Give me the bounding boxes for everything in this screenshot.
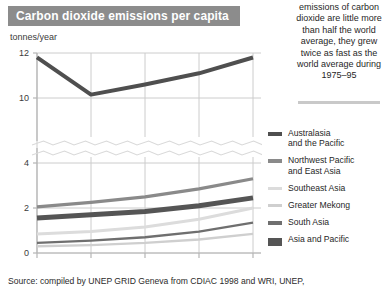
legend-item[interactable]: South Asia: [268, 217, 388, 227]
x-axis-tick-label: 1990: [189, 259, 209, 261]
legend-item-label: Northwest Pacific and East Asia: [288, 155, 354, 175]
plot-area: 121042019751980198519901995: [0, 44, 262, 260]
legend-item-label: Southeast Asia: [288, 183, 345, 193]
x-axis-tick-label: 1985: [135, 259, 155, 261]
legend-swatch-icon: [268, 187, 282, 190]
page-title: Carbon dioxide emissions per capita: [8, 9, 229, 23]
x-axis-tick-label: 1980: [81, 259, 101, 261]
legend-item[interactable]: Asia and Pacific: [268, 234, 388, 246]
legend-item[interactable]: Australasia and the Pacific: [268, 128, 388, 148]
y-axis-unit-label: tonnes/year: [10, 32, 57, 42]
source-footer: Source: compiled by UNEP GRID Geneva fro…: [8, 276, 380, 286]
legend-item[interactable]: Southeast Asia: [268, 183, 388, 193]
y-axis-tick-label: 4: [24, 158, 29, 168]
side-note-rule: [298, 101, 380, 104]
x-axis-tick-label: 1975: [27, 259, 47, 261]
y-axis-tick-label: 10: [19, 93, 29, 103]
y-axis-tick-label: 0: [24, 248, 29, 258]
legend-swatch-icon: [268, 132, 282, 136]
y-axis-tick-label: 2: [24, 203, 29, 213]
legend-swatch-icon: [268, 159, 282, 163]
y-axis-tick-label: 12: [19, 48, 29, 58]
legend-item-label: Asia and Pacific: [288, 234, 349, 244]
legend-item-label: Australasia and the Pacific: [288, 128, 344, 148]
chart-figure: Carbon dioxide emissions per capita tonn…: [0, 0, 388, 294]
chart-title-band: Carbon dioxide emissions per capita: [8, 6, 240, 26]
legend-item[interactable]: Northwest Pacific and East Asia: [268, 155, 388, 175]
x-axis-tick-label: 1995: [243, 259, 262, 261]
legend-item[interactable]: Greater Mekong: [268, 200, 388, 210]
chart-legend: Australasia and the PacificNorthwest Pac…: [268, 128, 388, 253]
chart-svg: 121042019751980198519901995: [0, 44, 262, 260]
side-note-text: emissions of carbon dioxide are little m…: [296, 2, 382, 82]
legend-item-label: South Asia: [288, 217, 329, 227]
legend-swatch-icon: [268, 238, 282, 246]
legend-swatch-icon: [268, 204, 282, 207]
legend-item-label: Greater Mekong: [288, 200, 350, 210]
legend-swatch-icon: [268, 221, 282, 225]
